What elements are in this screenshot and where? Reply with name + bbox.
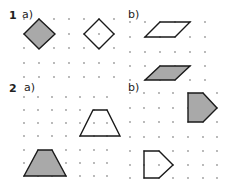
grid-dot <box>23 76 25 78</box>
grid-dot <box>65 162 67 164</box>
grid-dot <box>159 51 161 53</box>
grid-dot <box>204 65 206 67</box>
trapezoid-2a-shaded <box>24 150 66 176</box>
grid-dot <box>113 47 115 49</box>
parallelogram-1b-shaded <box>145 66 190 80</box>
grid-dot <box>143 136 145 138</box>
grid-dot <box>65 122 67 124</box>
grid-dot <box>23 47 25 49</box>
grid-dot <box>53 47 55 49</box>
grid-dot <box>83 47 85 49</box>
parallelogram-1b-outline <box>145 22 190 37</box>
grid-dot <box>68 33 70 35</box>
grid-dot <box>106 122 108 124</box>
grid-dot <box>53 76 55 78</box>
grid-dot <box>158 92 160 94</box>
grid-dot <box>23 135 25 137</box>
grid-dot <box>172 92 174 94</box>
grid-dot <box>38 76 40 78</box>
grid-dot <box>129 107 131 109</box>
grid-dot <box>216 164 218 166</box>
grid-dot <box>68 62 70 64</box>
grid-dot <box>129 65 131 67</box>
grid-dot <box>216 177 218 179</box>
grid-dot <box>172 136 174 138</box>
grid-dot <box>51 135 53 137</box>
grid-dot <box>216 121 218 123</box>
grid-dot <box>37 109 39 111</box>
question-1b-label: b) <box>128 9 139 20</box>
grid-dot <box>53 18 55 20</box>
grid-dot <box>106 162 108 164</box>
grid-dot <box>172 107 174 109</box>
grid-dot <box>79 149 81 151</box>
grid-dot <box>65 135 67 137</box>
grid-dot <box>79 122 81 124</box>
grid-dot <box>37 135 39 137</box>
grid-dot <box>202 177 204 179</box>
grid-dot <box>53 62 55 64</box>
grid-dot <box>172 150 174 152</box>
grid-dot <box>144 65 146 67</box>
grid-dot <box>189 51 191 53</box>
grid-dot <box>143 92 145 94</box>
grid-dot <box>68 47 70 49</box>
grid-dot <box>37 122 39 124</box>
grid-dot <box>79 96 81 98</box>
grid-dot <box>68 18 70 20</box>
grid-dot <box>93 162 95 164</box>
grid-dot <box>189 79 191 81</box>
grid-dot <box>129 121 131 123</box>
grid-dot <box>83 62 85 64</box>
grid-dot <box>202 150 204 152</box>
grid-dot <box>144 51 146 53</box>
grid-dot <box>172 121 174 123</box>
grid-dot <box>37 96 39 98</box>
grid-dot <box>158 121 160 123</box>
grid-dot <box>204 51 206 53</box>
question-2-number: 2 <box>9 83 17 94</box>
grid-dot <box>143 107 145 109</box>
grid-dot <box>144 21 146 23</box>
question-2a-label: a) <box>24 82 35 93</box>
grid-dot <box>216 136 218 138</box>
grid-dot <box>93 175 95 177</box>
grid-dot <box>93 122 95 124</box>
grid-dot <box>204 79 206 81</box>
grid-dot <box>83 18 85 20</box>
grid-dot <box>113 76 115 78</box>
grid-dot <box>23 149 25 151</box>
grid-dot <box>216 150 218 152</box>
grid-dot <box>158 164 160 166</box>
grid-dot <box>106 149 108 151</box>
grid-dot <box>79 175 81 177</box>
grid-dot <box>174 51 176 53</box>
grid-dot <box>187 177 189 179</box>
grid-dot <box>202 164 204 166</box>
grid-dot <box>187 136 189 138</box>
grid-dot <box>129 164 131 166</box>
grid-dot <box>51 96 53 98</box>
grid-dot <box>129 177 131 179</box>
grid-dot <box>23 122 25 124</box>
grid-dot <box>158 107 160 109</box>
grid-dot <box>187 150 189 152</box>
grid-dot <box>189 36 191 38</box>
grid-dot <box>202 136 204 138</box>
grid-dot <box>93 149 95 151</box>
grid-dot <box>187 164 189 166</box>
grid-dot <box>106 96 108 98</box>
grid-dot <box>23 109 25 111</box>
question-1-number: 1 <box>9 10 17 21</box>
dot-grid-worksheet: 1 a) b) 2 a) b) <box>0 0 228 184</box>
grid-dot <box>23 62 25 64</box>
grid-dot <box>129 136 131 138</box>
grid-dot <box>23 162 25 164</box>
grid-dot <box>172 177 174 179</box>
grid-dot <box>143 121 145 123</box>
pentagon-2b-shaded <box>188 93 217 122</box>
grid-dot <box>93 96 95 98</box>
square-1a-shaded <box>24 19 55 49</box>
grid-dot <box>113 18 115 20</box>
grid-dot <box>129 36 131 38</box>
